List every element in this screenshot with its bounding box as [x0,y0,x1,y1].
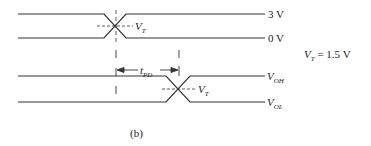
input-threshold-label: VT [135,20,147,35]
threshold-equation: VT = 1.5 V [304,48,351,63]
input-high-label: 3 V [268,8,284,20]
timing-diagram: 3 V 0 V VT tPD VT VOH VOL VT = 1.5 V (b) [0,0,371,146]
tpd-label: tPD [140,64,152,79]
output-waveform [18,76,265,102]
input-low-label: 0 V [268,32,284,44]
output-high-label: VOH [267,70,285,85]
output-threshold-label: VT [198,83,210,98]
output-low-label: VOL [267,96,283,111]
figure-caption: (b) [130,127,143,140]
